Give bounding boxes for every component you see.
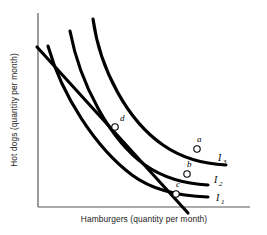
x-axis-title: Hamburgers (quantity per month): [81, 214, 208, 224]
curve-label-i1: I 1: [215, 192, 225, 206]
curve-label-i2-text: I: [213, 174, 218, 185]
curve-label-i2-subscript: 2: [219, 180, 223, 188]
chart-canvas: a b c d I 3 I 2 I 1 Hamburgers (quantity…: [0, 0, 267, 235]
curve-labels-group: I 3 I 2 I 1: [213, 152, 227, 206]
curves-group: [37, 19, 226, 213]
curve-label-i2: I 2: [213, 174, 223, 188]
curve-label-i1-text: I: [215, 192, 220, 203]
point-marker-a: [194, 146, 200, 152]
point-marker-c: [173, 191, 179, 197]
point-label-b: b: [187, 159, 192, 169]
indifference-curve-i3: [93, 19, 226, 165]
budget-constraint-line: [37, 47, 188, 213]
point-marker-d: [112, 124, 118, 130]
point-marker-b: [184, 171, 190, 177]
y-axis-title: Hot dogs (quantity per month): [9, 53, 19, 167]
indifference-curve-figure: a b c d I 3 I 2 I 1 Hamburgers (quantity…: [0, 0, 267, 235]
point-label-a: a: [197, 134, 202, 144]
curve-label-i3-subscript: 3: [222, 158, 227, 166]
point-label-c: c: [176, 179, 180, 189]
axes-group: [38, 13, 250, 207]
curve-label-i3-text: I: [217, 152, 222, 163]
point-label-d: d: [120, 113, 125, 123]
curve-label-i1-subscript: 1: [221, 198, 225, 206]
